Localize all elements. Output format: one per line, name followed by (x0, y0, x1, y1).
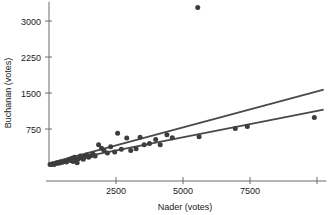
x-axis-tick-label: 7500 (240, 186, 260, 196)
scatter-plot-figure: 750150022503000 250050007500 Nader (vote… (0, 0, 331, 215)
x-axis-tick-label: 2500 (106, 186, 126, 196)
data-point (312, 115, 317, 120)
data-point (93, 154, 98, 159)
data-point (138, 135, 143, 140)
x-axis-tick-label: 5000 (173, 186, 193, 196)
data-point (153, 137, 158, 142)
data-points (48, 5, 317, 167)
y-axis: 750150022503000 (21, 2, 52, 163)
chart-canvas: 750150022503000 250050007500 Nader (vote… (0, 0, 331, 215)
y-axis-tick-label: 1500 (21, 89, 41, 99)
data-point (119, 147, 124, 152)
data-point (164, 132, 169, 137)
y-axis-tick-label: 2250 (21, 53, 41, 63)
data-point (147, 141, 152, 146)
data-point (142, 142, 147, 147)
y-axis-tick-label: 3000 (21, 17, 41, 27)
data-point (158, 142, 163, 147)
regression-lines (49, 90, 324, 164)
data-point (105, 151, 110, 156)
data-point (115, 131, 120, 136)
y-axis-tick-label: 750 (26, 125, 41, 135)
data-point (108, 144, 113, 149)
data-point (195, 5, 200, 10)
data-point (245, 124, 250, 129)
data-point (112, 150, 117, 155)
data-point (134, 146, 139, 151)
data-point (170, 135, 175, 140)
y-axis-title: Buchanan (votes) (3, 58, 13, 129)
upper-fit-line (49, 90, 324, 164)
data-point (233, 126, 238, 131)
x-axis-title: Nader (votes) (158, 202, 213, 212)
data-point (128, 148, 133, 153)
x-axis: 250050007500 (46, 177, 326, 196)
data-point (124, 136, 129, 141)
data-point (197, 134, 202, 139)
